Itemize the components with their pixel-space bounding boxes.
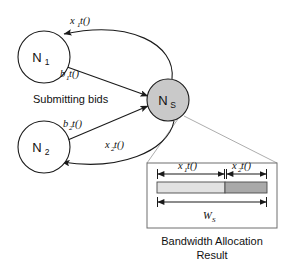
dimension-x1-var: x — [177, 160, 183, 171]
allocation-bar — [157, 182, 267, 193]
edge-label-x1-suffix: t() — [80, 15, 90, 27]
submitting-bids-label: Submitting bids — [33, 93, 109, 105]
dimension-x1-suffix: t() — [187, 160, 197, 172]
node-n2-subscript: 2 — [45, 147, 50, 157]
node-n2-label: N — [32, 140, 41, 155]
node-ns[interactable]: N S — [147, 79, 189, 121]
bandwidth-allocation-inset: x 1 t() x 2 t() W — [147, 160, 277, 228]
node-ns-label: N — [158, 93, 167, 108]
dimension-ws-sub: S — [212, 216, 216, 224]
node-ns-circle[interactable] — [147, 79, 189, 121]
dimension-x2-var: x — [231, 160, 237, 171]
edge-label-b2-var: b — [63, 118, 68, 129]
diagram-canvas: N 1 N 2 N S x 1 t() b 1 t() b 2 t() x 2 … — [0, 0, 295, 271]
edge-label-b1-var: b — [60, 68, 65, 79]
caption-line-1: Bandwidth Allocation — [161, 235, 263, 247]
edge-label-x2-var: x — [104, 139, 110, 150]
caption-line-2: Result — [196, 249, 227, 261]
edge-label-b2-suffix: t() — [72, 118, 82, 130]
dimension-x2-suffix: t() — [241, 160, 251, 172]
node-n1-label: N — [32, 50, 41, 65]
edge-label-x2-suffix: t() — [114, 139, 124, 151]
edge-label-b1-suffix: t() — [69, 68, 79, 80]
edge-label-x1-var: x — [69, 15, 75, 26]
node-ns-subscript: S — [170, 100, 176, 110]
allocation-bar-segment-x1 — [157, 182, 225, 193]
allocation-bar-segment-x2 — [225, 182, 267, 193]
node-n1-subscript: 1 — [45, 57, 50, 67]
